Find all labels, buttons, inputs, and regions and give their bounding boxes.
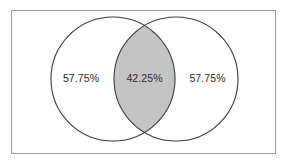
right-region-label: 57.75% (189, 72, 225, 84)
left-region-label: 57.75% (63, 72, 99, 84)
venn-diagram-figure: 57.75% 42.25% 57.75% (0, 0, 288, 167)
intersection-region-label: 42.25% (126, 72, 162, 84)
venn-diagram-canvas: 57.75% 42.25% 57.75% (0, 0, 288, 167)
